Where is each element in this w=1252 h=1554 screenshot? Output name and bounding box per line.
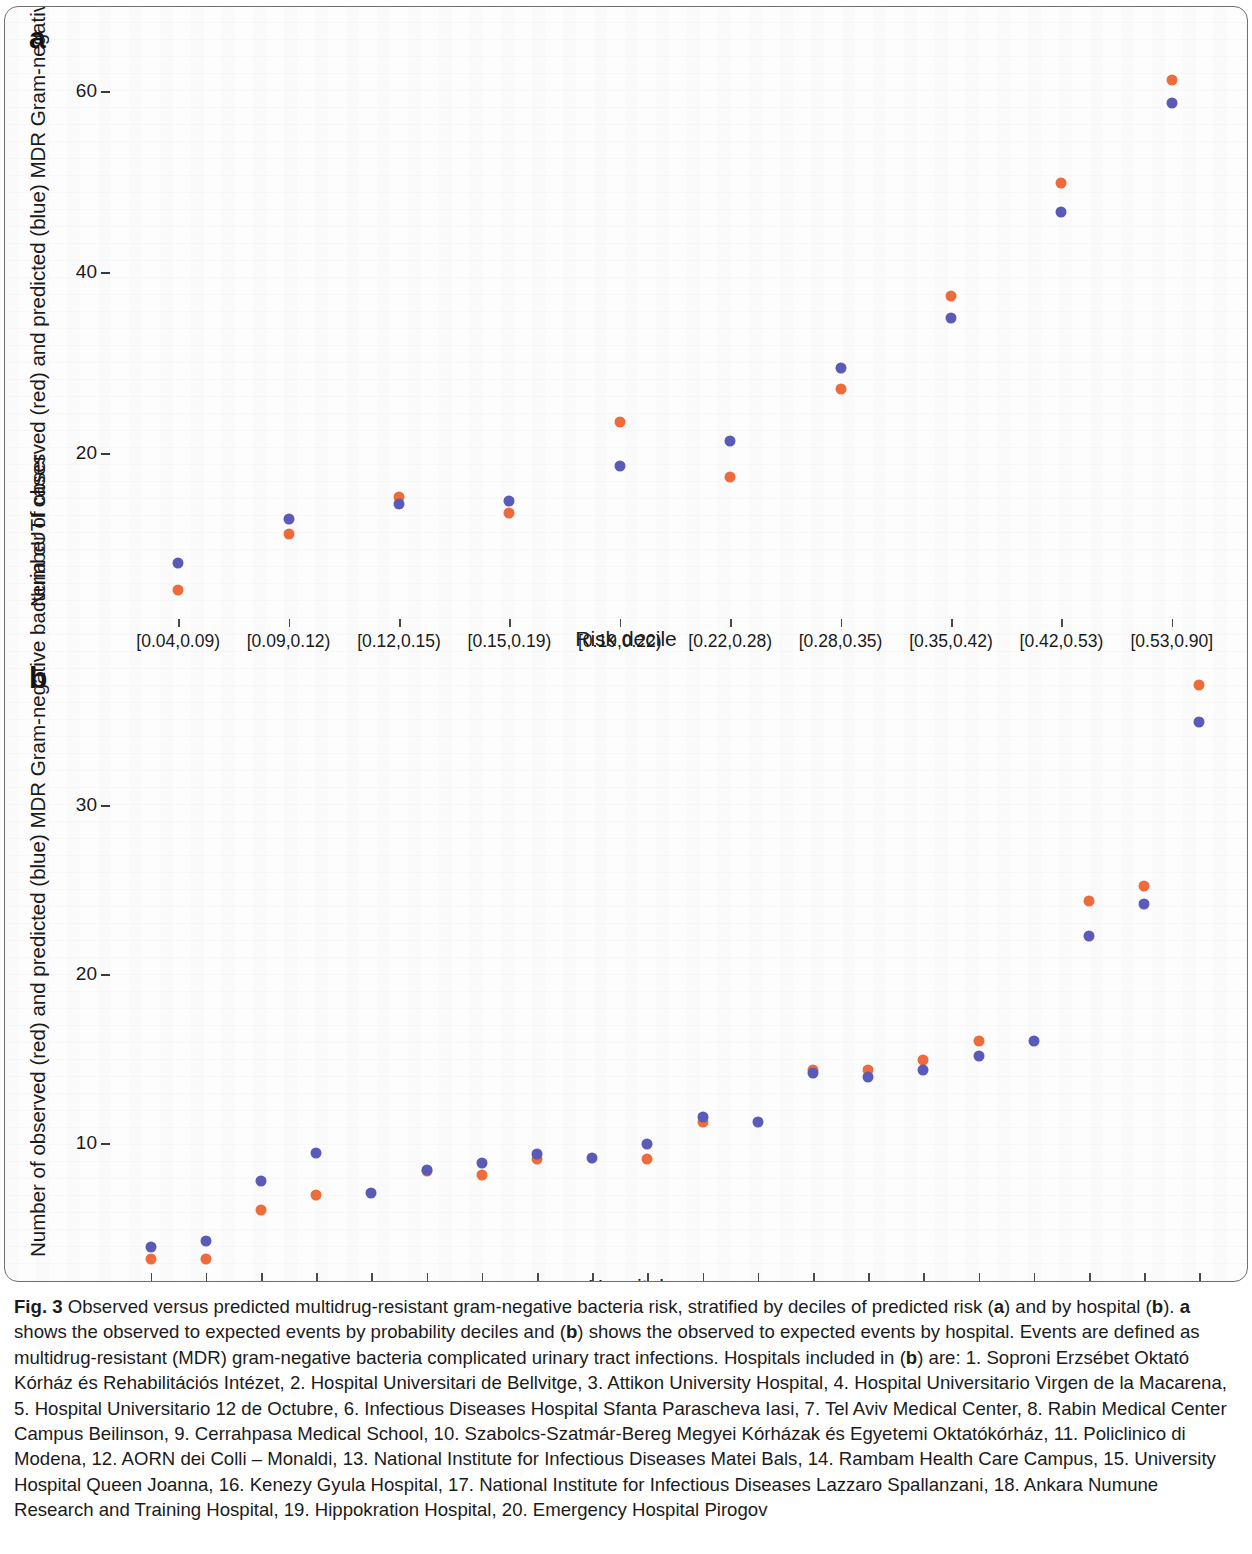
data-point	[918, 1064, 929, 1075]
data-point	[200, 1235, 211, 1246]
data-point	[283, 514, 294, 525]
data-point	[421, 1164, 432, 1175]
data-point	[725, 435, 736, 446]
data-point	[366, 1188, 377, 1199]
y-tick-label: 10	[37, 1132, 97, 1154]
data-point	[256, 1205, 267, 1216]
data-point	[311, 1189, 322, 1200]
data-point	[835, 384, 846, 395]
panel-b: b Number of observed (red) and predicted…	[5, 657, 1247, 1282]
data-point	[642, 1154, 653, 1165]
x-tick-mark	[509, 619, 511, 627]
panel-b-x-axis-label: Hospital	[5, 1275, 1247, 1282]
data-point	[283, 528, 294, 539]
x-tick-mark	[1061, 619, 1063, 627]
data-point	[394, 498, 405, 509]
x-tick-mark	[1172, 619, 1174, 627]
data-point	[1194, 716, 1205, 727]
data-point	[1084, 931, 1095, 942]
data-point	[532, 1149, 543, 1160]
data-point	[256, 1176, 267, 1187]
figure-caption: Fig. 3 Observed versus predicted multidr…	[14, 1294, 1242, 1523]
y-tick-label: 40	[37, 261, 97, 283]
data-point	[946, 313, 957, 324]
y-tick-label: 20	[37, 963, 97, 985]
x-tick-mark	[620, 619, 622, 627]
data-point	[1056, 206, 1067, 217]
y-tick-mark	[101, 1143, 110, 1145]
x-tick-mark	[178, 619, 180, 627]
data-point	[946, 290, 957, 301]
x-tick-mark	[841, 619, 843, 627]
data-point	[835, 363, 846, 374]
data-point	[1139, 899, 1150, 910]
caption-body: Observed versus predicted multidrug-resi…	[14, 1296, 1227, 1520]
data-point	[725, 471, 736, 482]
y-tick-label: 30	[37, 794, 97, 816]
data-point	[642, 1139, 653, 1150]
data-point	[476, 1157, 487, 1168]
data-point	[808, 1068, 819, 1079]
data-point	[587, 1152, 598, 1163]
x-tick-mark	[730, 619, 732, 627]
data-point	[1028, 1036, 1039, 1047]
figure-frame: a Number of observed (red) and predicted…	[4, 6, 1248, 1282]
data-point	[973, 1036, 984, 1047]
data-point	[697, 1112, 708, 1123]
y-tick-mark	[101, 453, 110, 455]
x-tick-mark	[289, 619, 291, 627]
x-tick-mark	[399, 619, 401, 627]
data-point	[504, 496, 515, 507]
data-point	[504, 507, 515, 518]
data-point	[145, 1254, 156, 1265]
y-tick-mark	[101, 974, 110, 976]
panel-b-plot-area: 1020301234567891011121314151617181920	[101, 671, 1241, 1271]
data-point	[863, 1071, 874, 1082]
y-tick-label: 60	[37, 80, 97, 102]
data-point	[173, 557, 184, 568]
data-point	[1194, 679, 1205, 690]
data-point	[1166, 98, 1177, 109]
panel-a-plot-area: 204060[0.04,0.09)[0.09,0.12)[0.12,0.15)[…	[101, 47, 1241, 617]
data-point	[614, 460, 625, 471]
data-point	[173, 584, 184, 595]
data-point	[311, 1147, 322, 1158]
y-tick-mark	[101, 805, 110, 807]
data-point	[973, 1051, 984, 1062]
data-point	[614, 417, 625, 428]
data-point	[1084, 895, 1095, 906]
y-tick-mark	[101, 91, 110, 93]
x-tick-mark	[951, 619, 953, 627]
data-point	[476, 1169, 487, 1180]
data-point	[200, 1254, 211, 1265]
caption-label: Fig. 3	[14, 1296, 63, 1317]
y-tick-mark	[101, 272, 110, 274]
data-point	[145, 1242, 156, 1253]
data-point	[752, 1117, 763, 1128]
data-point	[1056, 177, 1067, 188]
data-point	[1139, 880, 1150, 891]
panel-a: a Number of observed (red) and predicted…	[5, 7, 1247, 657]
data-point	[1166, 75, 1177, 86]
panel-a-x-axis-label: Risk decile	[5, 627, 1247, 651]
